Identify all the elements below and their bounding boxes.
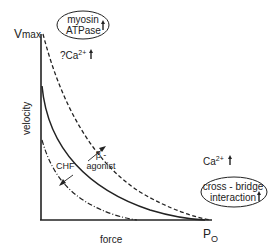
crossbridge-label: cross - bridge interaction [202,181,264,203]
y-axis-label: velocity [21,102,32,135]
vmax-label: Vmax [14,29,41,40]
arrow-up-icon [228,155,232,165]
ca-top-label: ?Ca2+ [60,50,86,61]
curve-normal [42,86,205,220]
myosin-atpase-label: myosin ATPase [66,14,100,36]
x-axis-label: force [100,234,122,245]
beta-agonist-label: β - agonist [84,150,118,172]
chf-label: CHF [56,161,75,172]
ca-right-label: Ca2+ [203,156,224,167]
curve-beta-agonist [43,34,210,220]
po-label: PO [203,229,218,241]
arrow-up-icon [89,49,93,59]
arrow-up-icon [101,20,105,30]
